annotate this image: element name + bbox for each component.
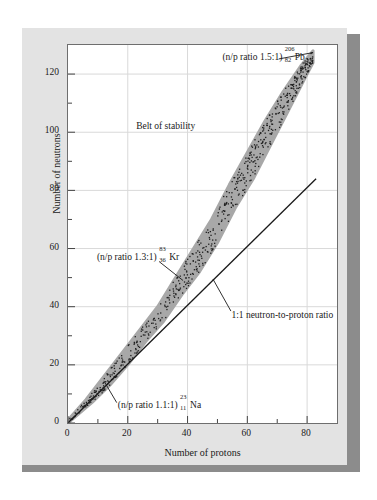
- x-axis-title: Number of protons: [67, 447, 338, 458]
- y-tick-label: 40: [21, 300, 59, 310]
- annotation-kr-83: (n/p ratio 1.3:1) 8336Kr: [97, 252, 179, 262]
- stability-belt-figure: 020406080100120 020406080 Number of neut…: [0, 0, 377, 500]
- one-to-one-ratio-line: [68, 179, 316, 423]
- panel-shadow-bottom: [28, 465, 360, 472]
- annotation-na-23: (n/p ratio 1.1:1) 2311Na: [118, 400, 201, 410]
- panel-shadow-right: [347, 34, 360, 472]
- y-tick-label: 0: [21, 416, 59, 426]
- belt-of-stability-band: [68, 51, 313, 423]
- x-tick-label: 80: [286, 428, 326, 438]
- y-axis-title: Number of neutrons: [51, 94, 62, 254]
- chart-canvas: [68, 45, 337, 423]
- annotation-belt-of-stability: Belt of stability: [136, 121, 195, 131]
- y-tick-label: 120: [21, 67, 59, 77]
- x-tick-label: 60: [226, 428, 266, 438]
- annotation-one-to-one-ratio: 1:1 neutron-to-proton ratio: [231, 310, 333, 320]
- plot-area: [67, 44, 338, 424]
- x-tick-label: 40: [167, 428, 207, 438]
- annotation-pb-206: (n/p ratio 1.5:1) 20682Pb: [222, 52, 304, 62]
- x-tick-label: 20: [107, 428, 147, 438]
- x-tick-label: 0: [47, 428, 87, 438]
- y-tick-label: 20: [21, 358, 59, 368]
